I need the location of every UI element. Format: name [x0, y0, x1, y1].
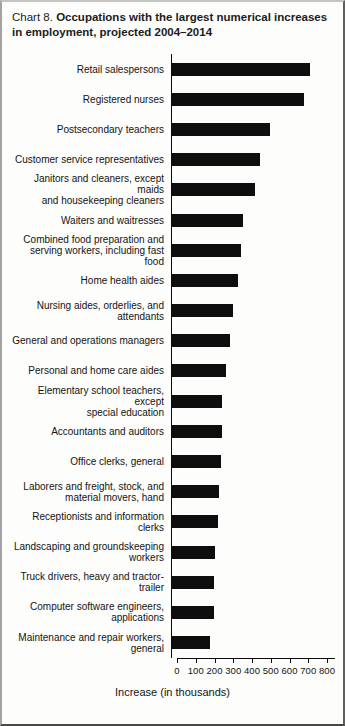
x-tick — [233, 659, 234, 663]
x-tick-label: 600 — [282, 665, 298, 676]
x-tick-label: 700 — [300, 665, 316, 676]
bar — [172, 546, 215, 559]
bar-track — [171, 84, 337, 114]
bar — [172, 244, 241, 257]
bar-category-label: Postsecondary teachers — [8, 124, 171, 135]
bar — [172, 515, 218, 528]
x-tick-label: 0 — [174, 665, 179, 676]
bar-row: Elementary school teachers, except speci… — [8, 386, 337, 416]
plot-rows: Retail salespersonsRegistered nursesPost… — [8, 54, 337, 658]
bar-track — [171, 356, 337, 386]
bar-row: Maintenance and repair workers, general — [8, 628, 337, 658]
x-tick — [252, 659, 253, 663]
bar-track — [171, 145, 337, 175]
bar — [172, 93, 304, 106]
bar-category-label: Accountants and auditors — [8, 426, 171, 437]
bar-track — [171, 597, 337, 627]
bar-category-label: Receptionists and information clerks — [8, 511, 171, 533]
bar — [172, 485, 219, 498]
bar-track — [171, 567, 337, 597]
bar-track — [171, 265, 337, 295]
bar-track — [171, 235, 337, 265]
x-tick — [177, 659, 178, 663]
bar-row: Laborers and freight, stock, and materia… — [8, 477, 337, 507]
bar-row: General and operations managers — [8, 326, 337, 356]
bar — [172, 395, 222, 408]
bar-track — [171, 175, 337, 205]
bar-row: Accountants and auditors — [8, 416, 337, 446]
bar-category-label: Janitors and cleaners, except maids and … — [8, 173, 171, 206]
bar-category-label: Combined food preparation and serving wo… — [8, 234, 171, 267]
x-tick — [196, 659, 197, 663]
bar-track — [171, 477, 337, 507]
bar-category-label: Retail salespersons — [8, 64, 171, 75]
bar-track — [171, 628, 337, 658]
bar-row: Truck drivers, heavy and tractor-trailer — [8, 567, 337, 597]
chart-title-text: Occupations with the largest numerical i… — [12, 11, 327, 38]
x-tick-label: 100 — [188, 665, 204, 676]
bar-track — [171, 326, 337, 356]
chart-number: Chart 8. — [12, 11, 53, 23]
bar-category-label: Maintenance and repair workers, general — [8, 632, 171, 654]
bar — [172, 214, 243, 227]
bar-category-label: Waiters and waitresses — [8, 215, 171, 226]
bar-category-label: Computer software engineers, application… — [8, 601, 171, 623]
bar-category-label: General and operations managers — [8, 335, 171, 346]
bar-track — [171, 537, 337, 567]
bar-row: Retail salespersons — [8, 54, 337, 84]
bar — [172, 606, 214, 619]
bar-category-label: Registered nurses — [8, 94, 171, 105]
bar-track — [171, 446, 337, 476]
bar-row: Customer service representatives — [8, 145, 337, 175]
bar-track — [171, 54, 337, 84]
bar — [172, 304, 233, 317]
bar-category-label: Landscaping and groundskeeping workers — [8, 541, 171, 563]
bar-category-label: Customer service representatives — [8, 154, 171, 165]
bar — [172, 425, 222, 438]
bar-track — [171, 416, 337, 446]
x-tick — [271, 659, 272, 663]
bar — [172, 123, 270, 136]
bar-category-label: Truck drivers, heavy and tractor-trailer — [8, 571, 171, 593]
bar — [172, 576, 214, 589]
bar — [172, 153, 260, 166]
x-tick — [290, 659, 291, 663]
x-tick-label: 200 — [207, 665, 223, 676]
bar-category-label: Home health aides — [8, 275, 171, 286]
bar — [172, 455, 221, 468]
bar-category-label: Nursing aides, orderlies, and attendants — [8, 300, 171, 322]
bar-row: Landscaping and groundskeeping workers — [8, 537, 337, 567]
bar — [172, 63, 310, 76]
bar-row: Nursing aides, orderlies, and attendants — [8, 296, 337, 326]
bar-chart: Retail salespersonsRegistered nursesPost… — [8, 54, 337, 698]
bar-row: Home health aides — [8, 265, 337, 295]
x-tick-label: 500 — [263, 665, 279, 676]
bar-row: Receptionists and information clerks — [8, 507, 337, 537]
bar-row: Computer software engineers, application… — [8, 597, 337, 627]
x-tick — [327, 659, 328, 663]
bar — [172, 183, 255, 196]
chart-page: Chart 8. Occupations with the largest nu… — [0, 0, 345, 726]
bar-category-label: Office clerks, general — [8, 456, 171, 467]
bar-row: Postsecondary teachers — [8, 114, 337, 144]
x-axis-label: Increase (in thousands) — [8, 686, 337, 698]
x-tick-label: 400 — [244, 665, 260, 676]
x-tick — [215, 659, 216, 663]
x-tick-label: 800 — [319, 665, 335, 676]
bar — [172, 334, 230, 347]
bar — [172, 364, 226, 377]
bar-row: Janitors and cleaners, except maids and … — [8, 175, 337, 205]
bar-track — [171, 114, 337, 144]
bar-category-label: Elementary school teachers, except speci… — [8, 385, 171, 418]
x-tick — [308, 659, 309, 663]
chart-title: Chart 8. Occupations with the largest nu… — [12, 10, 331, 40]
bar-track — [171, 386, 337, 416]
bar-row: Waiters and waitresses — [8, 205, 337, 235]
x-axis: 0100200300400500600700800 — [177, 658, 335, 680]
bar — [172, 274, 238, 287]
bar — [172, 636, 210, 649]
bar-row: Combined food preparation and serving wo… — [8, 235, 337, 265]
bar-track — [171, 507, 337, 537]
bar-track — [171, 296, 337, 326]
bar-row: Office clerks, general — [8, 446, 337, 476]
